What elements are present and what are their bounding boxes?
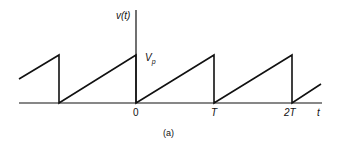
x-axis-label: t <box>317 108 320 118</box>
peak-label-main: V <box>145 52 152 63</box>
peak-label: Vp <box>145 53 156 65</box>
x-tick-0: 0 <box>133 108 139 118</box>
peak-label-sub: p <box>152 58 156 65</box>
x-tick-T: T <box>211 108 217 118</box>
x-tick-2T: 2T <box>284 108 296 118</box>
sawtooth-waveform <box>19 55 321 103</box>
sawtooth-diagram <box>0 0 340 148</box>
figure-caption: (a) <box>163 129 174 138</box>
y-axis-label: v(t) <box>116 11 130 21</box>
